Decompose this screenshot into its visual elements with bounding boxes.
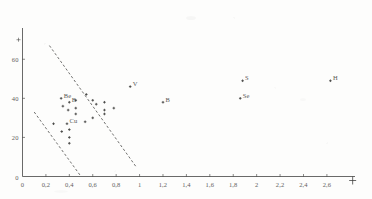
- data-point: [68, 136, 71, 139]
- data-point-label: B: [165, 96, 170, 103]
- data-point: [239, 97, 242, 100]
- data-point: [74, 107, 77, 110]
- data-point-label: V: [133, 80, 138, 87]
- data-point: [241, 79, 244, 82]
- data-point: [103, 101, 106, 104]
- x-tick-label: 0: [21, 181, 24, 188]
- x-tick-label: 1,2: [159, 181, 167, 188]
- y-tick-label: 20: [7, 134, 19, 141]
- data-point-label: Cu: [69, 117, 77, 124]
- x-tick-label: 2,2: [276, 181, 284, 188]
- y-tick-label: 60: [7, 56, 19, 63]
- x-tick-label: 2,6: [323, 181, 331, 188]
- data-point: [103, 109, 106, 112]
- x-tick-label: 1,6: [206, 181, 214, 188]
- x-tick-label: 1,8: [229, 181, 237, 188]
- data-point-label: H: [333, 74, 338, 81]
- data-point-label: Se: [243, 92, 250, 99]
- data-point: [67, 109, 70, 112]
- data-point: [52, 122, 55, 125]
- x-tick-label: 0,6: [89, 181, 97, 188]
- data-point: [129, 85, 132, 88]
- x-tick-label: 2,4: [299, 181, 307, 188]
- data-point-label: B: [72, 96, 77, 103]
- data-point: [103, 113, 106, 116]
- figure-scatter-plot: 00,20,40,60,811,21,41,61,822,22,42,60204…: [0, 0, 372, 199]
- x-tick-label: 1: [138, 181, 141, 188]
- data-point: [74, 113, 77, 116]
- data-point: [68, 128, 71, 131]
- plot-canvas: [0, 0, 372, 199]
- data-point: [84, 120, 87, 123]
- x-tick-label: 1,4: [182, 181, 190, 188]
- x-tick-label: 0,4: [65, 181, 73, 188]
- y-tick-label: 40: [7, 95, 19, 102]
- data-point: [329, 79, 332, 82]
- data-point: [60, 97, 63, 100]
- data-point: [113, 107, 116, 110]
- y-tick-label: 0: [7, 173, 19, 180]
- x-tick-label: 0,8: [112, 181, 120, 188]
- data-point-label: S: [245, 74, 249, 81]
- data-point: [66, 122, 69, 125]
- data-point: [68, 101, 71, 104]
- data-point: [91, 99, 94, 102]
- data-point: [91, 117, 94, 120]
- x-tick-label: 2: [255, 181, 258, 188]
- data-point: [60, 130, 63, 133]
- x-tick-label: 0,2: [42, 181, 50, 188]
- data-point: [95, 103, 98, 106]
- data-point: [62, 105, 65, 108]
- data-point: [68, 142, 71, 145]
- data-point: [162, 101, 165, 104]
- data-point-label: Be: [64, 92, 72, 99]
